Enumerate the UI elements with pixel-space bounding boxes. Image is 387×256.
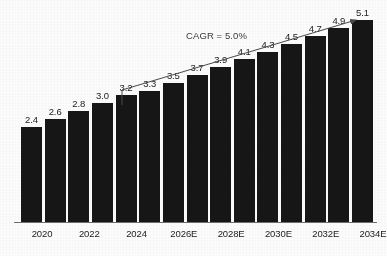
bar-rect [305,36,326,222]
cagr-label: CAGR = 5.0% [186,30,247,41]
x-tick-2020: 2020 [19,228,65,239]
bar-rect [163,83,184,222]
bar-rect [210,67,231,222]
bar-rect [92,103,113,222]
bar-rect [21,127,42,222]
x-tick-2028E: 2028E [208,228,254,239]
bar-rect [68,111,89,222]
bar-rect [45,119,66,222]
x-tick-2034E: 2034E [350,228,387,239]
bar-rect [139,91,160,222]
bar-rect [352,20,373,222]
x-axis-line [14,222,377,223]
bar-rect [234,59,255,222]
x-tick-2024: 2024 [114,228,160,239]
x-tick-2026E: 2026E [161,228,207,239]
bar-value-label: 5.1 [346,8,379,18]
x-tick-2030E: 2030E [255,228,301,239]
bar-rect [328,28,349,222]
bar-rect [187,75,208,222]
x-axis-labels: 2020202220242026E2028E2030E2032E2034E [21,228,373,244]
bar-chart: 2.42.62.83.03.23.33.53.73.94.14.34.54.74… [0,0,387,256]
bar-rect [281,44,302,222]
bar-rect [257,52,278,222]
x-tick-2032E: 2032E [303,228,349,239]
bar-rect [116,95,137,222]
x-tick-2022: 2022 [66,228,112,239]
